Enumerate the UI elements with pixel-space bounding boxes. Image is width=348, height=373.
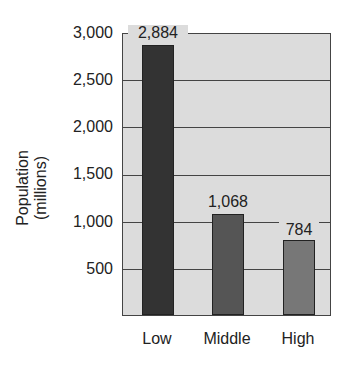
value-label-low: 2,884 <box>128 25 188 41</box>
y-tick-1500: 1,500 <box>73 166 113 182</box>
bar-high <box>283 240 315 315</box>
y-tick-500: 500 <box>86 261 113 277</box>
y-tick-1000: 1,000 <box>73 214 113 230</box>
x-label-high: High <box>263 330 333 348</box>
bar-middle <box>212 214 244 315</box>
x-label-low: Low <box>122 330 192 348</box>
value-label-middle: 1,068 <box>198 194 258 210</box>
value-label-high: 784 <box>279 222 319 238</box>
y-tick-3000: 3,000 <box>73 25 113 41</box>
plot-area: 2,884 1,068 784 <box>122 33 331 316</box>
y-axis-title: Population (millions) <box>14 118 50 258</box>
x-label-middle: Middle <box>192 330 262 348</box>
y-tick-2500: 2,500 <box>73 72 113 88</box>
bar-low <box>142 45 174 315</box>
y-tick-2000: 2,000 <box>73 119 113 135</box>
